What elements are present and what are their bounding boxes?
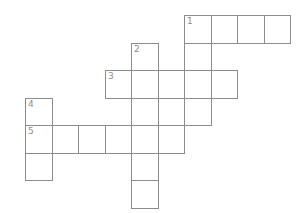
crossword-cell[interactable] [237,15,265,44]
crossword-cell[interactable] [264,15,291,44]
crossword-cell[interactable] [78,125,106,154]
crossword-cell[interactable] [158,125,185,154]
crossword-cell[interactable] [158,70,185,99]
crossword-cell[interactable]: 4 [25,98,53,126]
crossword-cell[interactable]: 3 [105,70,132,99]
crossword-cell[interactable] [131,70,159,99]
crossword-cell[interactable]: 2 [131,43,159,71]
crossword-cell[interactable]: 5 [25,125,53,154]
crossword-cell[interactable] [131,98,159,126]
crossword-grid: 12345 [0,0,305,213]
clue-number: 1 [187,16,193,26]
crossword-cell[interactable] [211,70,238,99]
crossword-cell[interactable] [131,125,159,154]
crossword-cell[interactable] [52,125,79,154]
crossword-cell[interactable] [131,180,159,209]
crossword-cell[interactable] [158,98,185,126]
clue-number: 3 [108,71,114,81]
crossword-cell[interactable] [131,153,159,181]
clue-number: 4 [28,99,34,109]
crossword-cell[interactable] [184,98,212,126]
crossword-cell[interactable] [211,15,238,44]
crossword-cell[interactable] [184,70,212,99]
clue-number: 5 [28,126,34,136]
crossword-cell[interactable] [105,125,132,154]
crossword-cell[interactable] [25,153,53,181]
crossword-cell[interactable] [184,43,212,71]
clue-number: 2 [134,44,140,54]
crossword-cell[interactable]: 1 [184,15,212,44]
